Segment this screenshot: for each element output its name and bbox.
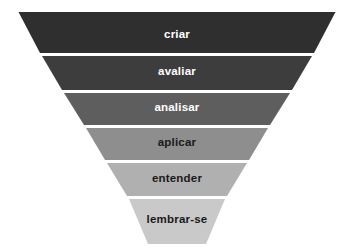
pyramid-band-aplicar (86, 128, 268, 160)
pyramid-shapes (0, 0, 354, 250)
inverted-pyramid-diagram: criar avaliar analisar aplicar entender … (0, 0, 354, 250)
pyramid-band-analisar (64, 93, 290, 125)
pyramid-band-avaliar (42, 56, 312, 90)
pyramid-band-criar (19, 12, 336, 53)
pyramid-band-entender (107, 163, 247, 196)
